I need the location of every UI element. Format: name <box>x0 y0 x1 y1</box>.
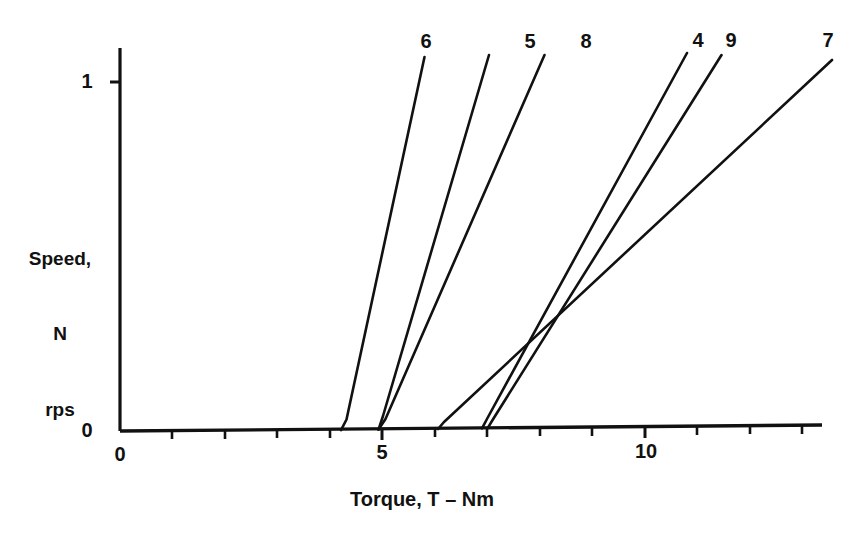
chart-curves <box>341 53 832 430</box>
curve-4 <box>482 53 687 428</box>
y-axis-title-line-2: N <box>14 321 106 346</box>
curve-label-6: 6 <box>420 30 431 52</box>
x-tick-label-5: 5 <box>376 441 387 463</box>
y-tick-label-1: 1 <box>81 70 92 92</box>
y-axis-title: Speed, N rps <box>14 196 106 472</box>
curve-6 <box>341 57 425 430</box>
curve-label-5: 5 <box>524 30 535 52</box>
curve-5 <box>379 55 490 430</box>
x-tick-label-10: 10 <box>635 440 657 462</box>
x-tick-label-0: 0 <box>114 443 125 465</box>
x-axis-line <box>120 425 822 431</box>
chart-plot-area <box>0 0 863 536</box>
curve-label-7: 7 <box>822 29 833 51</box>
y-axis-title-line-3: rps <box>14 397 106 422</box>
curve-7 <box>438 60 832 429</box>
x-axis-title: Torque, T – Nm <box>350 488 494 510</box>
curve-label-9: 9 <box>725 29 736 51</box>
curve-label-8: 8 <box>580 30 591 52</box>
y-axis-title-line-1: Speed, <box>14 246 106 271</box>
curve-9 <box>488 55 722 428</box>
torque-speed-chart: 1 0 0 5 10 Speed, N rps Torque, T – Nm 6… <box>0 0 863 536</box>
curve-8 <box>379 55 545 430</box>
curve-label-4: 4 <box>692 29 703 51</box>
